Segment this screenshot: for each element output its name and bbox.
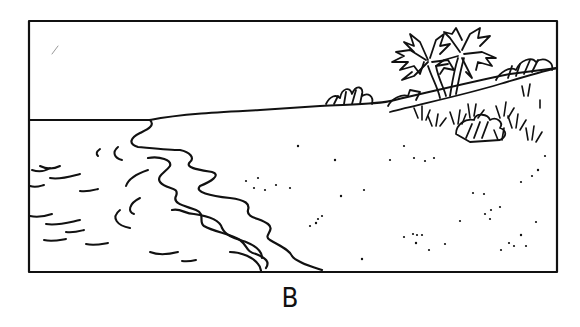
- shoreline: [131, 120, 322, 272]
- grass-tufts: [414, 84, 542, 142]
- surf-arcs: [97, 147, 148, 228]
- palm-trees: [392, 28, 496, 98]
- water-ripples: [30, 166, 196, 261]
- figure-label: B: [271, 283, 309, 313]
- sand-dots: [245, 145, 546, 260]
- sky-mark: [52, 46, 58, 54]
- picture-frame: [29, 21, 557, 272]
- beach-scene-illustration: [0, 0, 580, 327]
- land-horizon: [150, 68, 557, 120]
